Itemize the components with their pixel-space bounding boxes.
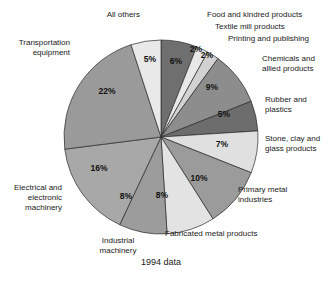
slice-percentage-label: 16% — [90, 163, 107, 173]
slice-category-label: Textile mill products — [215, 22, 285, 31]
slice-category-label: Electrical andelectronicmachinery — [14, 183, 62, 212]
slice-category-label: Industrialmachinery — [100, 236, 137, 255]
slice-percentage-label: 10% — [190, 173, 207, 183]
slice-percentage-label: 7% — [216, 139, 229, 149]
slice-category-label: Fabricated metal products — [165, 229, 258, 238]
figure-caption: 1994 data — [141, 257, 181, 267]
slice-category-label: Food and kindred products — [207, 10, 302, 19]
slice-percentage-label: 6% — [170, 56, 183, 66]
pie-chart-svg: 6%2%2%9%5%7%10%8%8%16%22%5% Food and kin… — [0, 0, 333, 286]
slice-category-label: All others — [107, 10, 140, 19]
slice-category-label: Primary metalindustries — [238, 185, 288, 204]
slice-category-label: Chemicals andallied products — [262, 54, 315, 73]
slice-percentage-label: 8% — [156, 190, 169, 200]
slice-percentage-label: 9% — [206, 82, 219, 92]
slice-percentage-label: 5% — [144, 54, 157, 64]
slice-percentage-label: 5% — [218, 109, 231, 119]
slice-category-label: Printing and publishing — [228, 34, 309, 43]
slice-category-label: Stone, clay andglass products — [265, 134, 320, 153]
pie-slices-group — [64, 40, 258, 234]
chart-figure: 6%2%2%9%5%7%10%8%8%16%22%5% Food and kin… — [0, 0, 333, 286]
slice-category-label: Transportationequipment — [19, 38, 71, 57]
slice-percentage-label: 2% — [201, 50, 214, 60]
slice-category-label: Rubber andplastics — [265, 95, 307, 114]
slice-percentage-label: 8% — [120, 191, 133, 201]
slice-percentage-label: 22% — [98, 86, 115, 96]
